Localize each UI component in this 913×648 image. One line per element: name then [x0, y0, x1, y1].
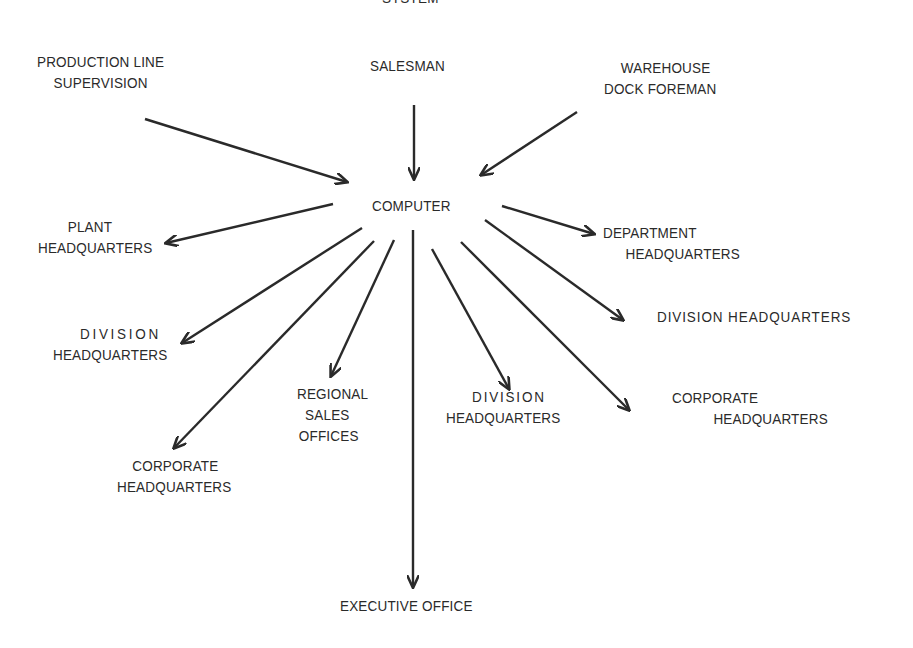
information-flow-diagram: SYSTEM COMPUTER PRODUCTION LINE SUPERVIS…: [0, 0, 913, 648]
division-headquarters-left-node: DIVISION HEADQUARTERS: [53, 323, 167, 365]
arrow-computer-to-regional-sales: [331, 240, 394, 376]
regional-sales-offices-node: REGIONAL SALES OFFICES: [297, 383, 368, 446]
salesman-node: SALESMAN: [370, 55, 445, 76]
arrow-computer-to-division-hq-mid: [432, 249, 509, 389]
computer-node: COMPUTER: [372, 195, 451, 216]
arrow-computer-to-division-hq-left: [182, 228, 362, 343]
plant-headquarters-node: PLANT HEADQUARTERS: [38, 216, 152, 258]
corporate-headquarters-left-node: CORPORATE HEADQUARTERS: [117, 455, 231, 497]
arrow-computer-to-department-hq: [502, 206, 594, 234]
division-headquarters-mid-node: DIVISION HEADQUARTERS: [446, 386, 560, 428]
arrow-warehouse-to-computer: [481, 112, 577, 175]
executive-office-node: EXECUTIVE OFFICE: [340, 595, 473, 616]
production-line-supervision-node: PRODUCTION LINE SUPERVISION: [37, 51, 164, 93]
department-headquarters-node: DEPARTMENT HEADQUARTERS: [603, 222, 740, 264]
arrow-computer-to-corporate-hq-right: [461, 242, 629, 410]
warehouse-dock-foreman-node: WAREHOUSE DOCK FOREMAN: [604, 57, 716, 99]
arrow-production-to-computer: [145, 119, 347, 182]
corporate-headquarters-right-node: CORPORATE HEADQUARTERS: [672, 387, 828, 429]
division-headquarters-right-node: DIVISION HEADQUARTERS: [657, 306, 851, 327]
arrow-computer-to-plant-hq: [166, 204, 333, 243]
title-fragment: SYSTEM: [382, 0, 439, 8]
